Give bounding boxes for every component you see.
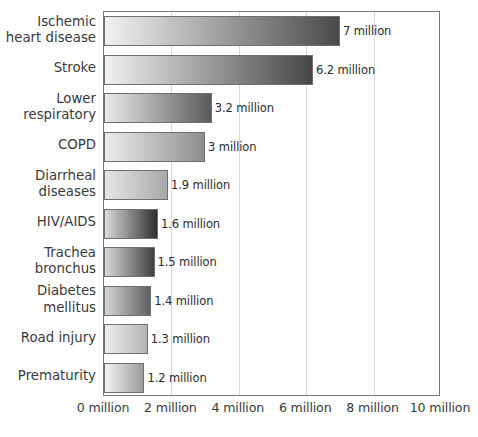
y-axis-label-text: Lowerrespiratory — [23, 91, 96, 124]
y-axis-label-text: Diabetesmellitus — [37, 283, 96, 316]
x-axis-tick-label: 0 million — [77, 400, 130, 415]
x-axis-tick-label: 8 million — [346, 400, 399, 415]
bar-row: 3.2 million — [104, 93, 439, 123]
bar-value-label: 7 million — [343, 24, 391, 38]
y-axis-label-text: Ischemicheart disease — [6, 14, 96, 47]
x-axis-tick-label: 2 million — [144, 400, 197, 415]
y-axis-label: Ischemicheart disease — [0, 15, 96, 45]
y-axis-label: Prematurity — [0, 362, 96, 392]
bar-value-label: 1.9 million — [171, 178, 230, 192]
y-axis-label: Tracheabronchus — [0, 246, 96, 276]
x-axis-tick-label: 10 million — [410, 400, 470, 415]
y-axis-label-text: COPD — [58, 137, 96, 154]
bar — [104, 247, 155, 277]
y-axis-label: Diabetesmellitus — [0, 285, 96, 315]
bar-row: 1.5 million — [104, 247, 439, 277]
bar-value-label: 3.2 million — [215, 101, 274, 115]
bar-value-label: 6.2 million — [316, 63, 375, 77]
bar-value-label: 1.2 million — [147, 371, 206, 385]
bar — [104, 286, 151, 316]
bar — [104, 363, 144, 393]
bar — [104, 209, 158, 239]
y-axis-label: HIV/AIDS — [0, 208, 96, 238]
bar-row: 3 million — [104, 132, 439, 162]
x-axis-tick-label: 4 million — [211, 400, 264, 415]
bar — [104, 16, 340, 46]
bar-value-label: 1.5 million — [158, 255, 217, 269]
bar-value-label: 1.6 million — [161, 217, 220, 231]
bar-value-label: 3 million — [208, 140, 256, 154]
bar-row: 1.2 million — [104, 363, 439, 393]
y-axis-label-text: Road injury — [21, 330, 96, 347]
bar-row: 1.9 million — [104, 170, 439, 200]
y-axis-label: Road injury — [0, 323, 96, 353]
y-axis-label: Stroke — [0, 54, 96, 84]
bar — [104, 324, 148, 354]
bar-row: 7 million — [104, 16, 439, 46]
bar — [104, 132, 205, 162]
bar-row: 1.3 million — [104, 324, 439, 354]
bar-row: 1.6 million — [104, 209, 439, 239]
y-axis-label: Lowerrespiratory — [0, 92, 96, 122]
x-axis-tick-label: 6 million — [279, 400, 332, 415]
bar — [104, 55, 313, 85]
y-axis-label: COPD — [0, 131, 96, 161]
bar-chart: Ischemicheart diseaseStrokeLowerrespirat… — [0, 0, 478, 437]
bar-value-label: 1.3 million — [151, 332, 210, 346]
y-axis-label-text: Diarrhealdiseases — [35, 168, 96, 201]
bar-value-label: 1.4 million — [154, 294, 213, 308]
bar-row: 6.2 million — [104, 55, 439, 85]
bar — [104, 170, 168, 200]
y-axis-label-text: Prematurity — [18, 368, 96, 385]
y-axis-label-text: HIV/AIDS — [37, 214, 96, 231]
bar-row: 1.4 million — [104, 286, 439, 316]
y-axis-label-text: Tracheabronchus — [35, 245, 96, 278]
y-axis-label: Diarrhealdiseases — [0, 169, 96, 199]
y-axis-label-text: Stroke — [54, 60, 96, 77]
bar — [104, 93, 212, 123]
plot-area: 7 million6.2 million3.2 million3 million… — [103, 11, 440, 396]
